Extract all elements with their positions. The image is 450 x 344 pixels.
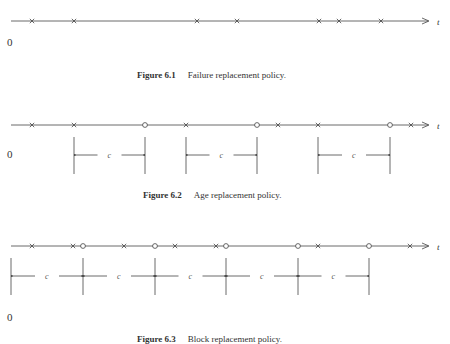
arrow-tip	[143, 154, 145, 156]
arrow-tip	[74, 154, 76, 156]
arrow-tip	[11, 275, 13, 277]
fig62-origin-label: 0	[7, 148, 13, 160]
preventive-replacement-icon	[143, 123, 148, 128]
fig63-caption: Figure 6.3Block replacement policy.	[137, 334, 282, 344]
arrow-tip	[83, 275, 85, 277]
interval-length-label: c	[260, 272, 264, 281]
fig62-axis-label: t	[437, 121, 440, 131]
preventive-replacement-icon	[153, 244, 158, 249]
arrow-tip	[81, 275, 83, 277]
arrow-tip	[318, 154, 320, 156]
fig62-caption-title: Age replacement policy.	[194, 190, 282, 200]
interval-length-label: c	[117, 272, 121, 281]
arrow-tip	[153, 275, 155, 277]
arrow-tip	[367, 275, 369, 277]
fig63-origin-label: 0	[7, 311, 13, 323]
fig61-caption-number: Figure 6.1	[137, 70, 176, 80]
interval-length-label: c	[220, 151, 224, 160]
arrow-tip	[388, 154, 390, 156]
fig61-origin-label: 0	[7, 36, 13, 48]
arrow-tip	[255, 154, 257, 156]
fig62-caption-number: Figure 6.2	[143, 190, 182, 200]
fig63-caption-title: Block replacement policy.	[188, 334, 282, 344]
arrow-tip	[224, 275, 226, 277]
preventive-replacement-icon	[367, 244, 372, 249]
preventive-replacement-icon	[81, 244, 86, 249]
interval-length-label: c	[45, 272, 49, 281]
preventive-replacement-icon	[388, 123, 393, 128]
arrow-tip	[296, 275, 298, 277]
interval-length-label: c	[189, 272, 193, 281]
arrow-tip	[226, 275, 228, 277]
preventive-replacement-icon	[255, 123, 260, 128]
fig61-caption-title: Failure replacement policy.	[188, 70, 286, 80]
fig61-axis-label: t	[437, 17, 440, 27]
preventive-replacement-icon	[296, 244, 301, 249]
preventive-replacement-icon	[224, 244, 229, 249]
fig63-axis-label: t	[437, 242, 440, 252]
arrow-tip	[155, 275, 157, 277]
fig62-caption: Figure 6.2Age replacement policy.	[143, 190, 281, 200]
interval-length-label: c	[352, 151, 356, 160]
fig61-caption: Figure 6.1Failure replacement policy.	[137, 70, 286, 80]
arrow-tip	[298, 275, 300, 277]
interval-length-label: c	[108, 151, 112, 160]
interval-length-label: c	[332, 272, 336, 281]
arrow-tip	[186, 154, 188, 156]
fig63-caption-number: Figure 6.3	[137, 334, 176, 344]
